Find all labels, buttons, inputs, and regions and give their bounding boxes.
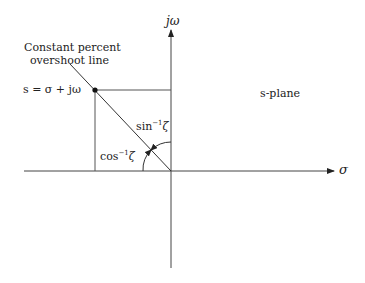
annotation-line1: Constant percent xyxy=(24,42,121,54)
sin-variable: ζ xyxy=(163,120,169,133)
plane-label: s-plane xyxy=(260,88,300,100)
real-axis-label: σ xyxy=(339,164,348,176)
imaginary-axis-label: jω xyxy=(166,15,180,27)
cos-inverse-label: cos−1ζ xyxy=(100,147,135,163)
annotation-line2: overshoot line xyxy=(30,55,109,67)
sin-inverse-label: sin−1ζ xyxy=(136,117,169,133)
cos-text: cos xyxy=(100,150,118,163)
sin-angle-arc xyxy=(151,142,171,150)
cos-angle-arc xyxy=(143,150,151,171)
sin-text: sin xyxy=(136,120,152,133)
point-label: s = σ + jω xyxy=(23,84,81,96)
cos-exponent: −1 xyxy=(118,149,128,157)
cos-variable: ζ xyxy=(129,150,135,163)
sin-exponent: −1 xyxy=(152,119,162,127)
point-s xyxy=(92,87,97,92)
s-plane-diagram: jω σ Constant percent overshoot line s =… xyxy=(0,0,365,283)
